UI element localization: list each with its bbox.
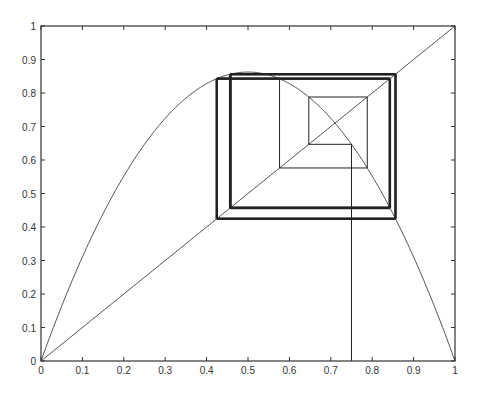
y-tick-label: 0.6 bbox=[22, 155, 36, 166]
y-tick-label: 0.3 bbox=[22, 256, 36, 267]
y-tick-label: 0.7 bbox=[22, 122, 36, 133]
x-tick-label: 0.7 bbox=[324, 365, 338, 376]
identity-line bbox=[41, 26, 455, 361]
x-tick-label: 0 bbox=[38, 365, 44, 376]
y-tick-label: 0.4 bbox=[22, 222, 36, 233]
cobweb-chart: 00.10.20.30.40.50.60.70.80.9100.10.20.30… bbox=[0, 0, 481, 398]
x-tick-label: 0.8 bbox=[365, 365, 379, 376]
y-tick-label: 0.1 bbox=[22, 323, 36, 334]
x-tick-label: 1 bbox=[452, 365, 458, 376]
y-tick-label: 0.9 bbox=[22, 55, 36, 66]
y-tick-label: 0.2 bbox=[22, 289, 36, 300]
x-tick-label: 0.2 bbox=[117, 365, 131, 376]
logistic-curve bbox=[41, 72, 455, 361]
x-tick-label: 0.6 bbox=[282, 365, 296, 376]
y-tick-label: 0 bbox=[30, 356, 36, 367]
x-tick-label: 0.3 bbox=[158, 365, 172, 376]
y-tick-label: 0.8 bbox=[22, 88, 36, 99]
x-tick-label: 0.9 bbox=[407, 365, 421, 376]
x-tick-label: 0.1 bbox=[75, 365, 89, 376]
x-tick-label: 0.5 bbox=[241, 365, 255, 376]
x-tick-label: 0.4 bbox=[200, 365, 214, 376]
y-tick-label: 0.5 bbox=[22, 189, 36, 200]
y-tick-label: 1 bbox=[30, 21, 36, 32]
plot-area bbox=[41, 26, 455, 361]
